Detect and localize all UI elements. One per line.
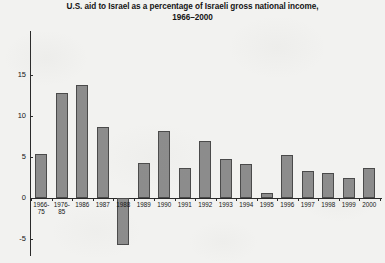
y-tick-label: -5 bbox=[2, 235, 26, 243]
x-tick-label-1991: 1991 bbox=[174, 201, 196, 208]
x-tick-label-1998: 1998 bbox=[317, 201, 339, 208]
bar-chart-figure: U.S. aid to Israel as a percentage of Is… bbox=[0, 0, 385, 263]
bar-1999 bbox=[343, 178, 355, 198]
x-label-line-1: 1993 bbox=[219, 201, 233, 208]
x-label-line-1: 1992 bbox=[198, 201, 212, 208]
y-tick bbox=[30, 239, 33, 240]
bar-1996 bbox=[281, 155, 293, 198]
bar-1966-75 bbox=[35, 154, 47, 198]
x-label-line-1: 1988 bbox=[116, 201, 130, 208]
y-tick bbox=[30, 157, 33, 158]
bar-1993 bbox=[220, 159, 232, 198]
bar-1991 bbox=[179, 168, 191, 198]
x-label-line-1: 1990 bbox=[157, 201, 171, 208]
bar-1989 bbox=[138, 163, 150, 198]
x-label-line-2: 75 bbox=[30, 208, 52, 215]
x-tick-label-1990: 1990 bbox=[153, 201, 175, 208]
y-axis-line bbox=[30, 31, 31, 256]
x-label-line-1: 1996 bbox=[280, 201, 294, 208]
bar-1995 bbox=[261, 193, 273, 198]
x-label-line-1: 1966- bbox=[33, 201, 49, 208]
bar-1998 bbox=[322, 173, 334, 198]
bar-2000 bbox=[363, 168, 375, 198]
x-tick-label-2000: 2000 bbox=[358, 201, 380, 208]
x-label-line-1: 1989 bbox=[137, 201, 151, 208]
x-tick-label-1987: 1987 bbox=[92, 201, 114, 208]
x-label-line-1: 1998 bbox=[321, 201, 335, 208]
bar-1986 bbox=[76, 85, 88, 198]
x-label-line-1: 1976- bbox=[54, 201, 70, 208]
bar-1990 bbox=[158, 131, 170, 198]
x-label-line-1: 1995 bbox=[260, 201, 274, 208]
y-tick-label: 5 bbox=[2, 153, 26, 161]
y-tick-label: 15 bbox=[2, 71, 26, 79]
y-tick bbox=[30, 116, 33, 117]
y-tick-label: 10 bbox=[2, 112, 26, 120]
x-tick-label-1995: 1995 bbox=[256, 201, 278, 208]
x-tick-label-1976-85: 1976-85 bbox=[51, 201, 73, 216]
x-label-line-1: 1991 bbox=[178, 201, 192, 208]
x-axis-line bbox=[30, 198, 382, 199]
bar-1992 bbox=[199, 141, 211, 198]
x-label-line-1: 1999 bbox=[342, 201, 356, 208]
x-tick-label-1989: 1989 bbox=[133, 201, 155, 208]
bar-1994 bbox=[240, 164, 252, 198]
y-tick bbox=[30, 75, 33, 76]
bar-1976-85 bbox=[56, 93, 68, 198]
x-tick-label-1988: 1988 bbox=[112, 201, 134, 208]
plot-area: 151050-5 1966-751976-8519861987198819891… bbox=[0, 0, 385, 263]
x-tick-label-1994: 1994 bbox=[235, 201, 257, 208]
x-tick-label-1966-75: 1966-75 bbox=[30, 201, 52, 216]
x-label-line-1: 2000 bbox=[362, 201, 376, 208]
x-tick bbox=[380, 198, 381, 201]
x-label-line-1: 1994 bbox=[239, 201, 253, 208]
x-label-line-1: 1997 bbox=[301, 201, 315, 208]
x-tick-label-1999: 1999 bbox=[338, 201, 360, 208]
x-tick-label-1996: 1996 bbox=[276, 201, 298, 208]
bar-1987 bbox=[97, 127, 109, 198]
x-tick-label-1997: 1997 bbox=[297, 201, 319, 208]
x-tick-label-1993: 1993 bbox=[215, 201, 237, 208]
y-tick-label: 0 bbox=[2, 194, 26, 202]
x-label-line-1: 1987 bbox=[96, 201, 110, 208]
x-label-line-1: 1986 bbox=[75, 201, 89, 208]
x-tick-label-1992: 1992 bbox=[194, 201, 216, 208]
bar-1997 bbox=[302, 171, 314, 198]
x-label-line-2: 85 bbox=[51, 208, 73, 215]
x-tick-label-1986: 1986 bbox=[71, 201, 93, 208]
